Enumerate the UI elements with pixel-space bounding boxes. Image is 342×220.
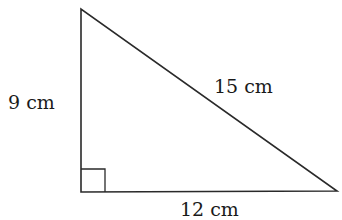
base-label: 12 cm <box>180 198 239 220</box>
left-side-label: 9 cm <box>8 91 55 113</box>
hypotenuse-label: 15 cm <box>214 75 273 97</box>
triangle-outline <box>81 9 337 192</box>
right-triangle-diagram: 9 cm 15 cm 12 cm <box>0 0 342 220</box>
right-angle-marker <box>81 169 105 192</box>
